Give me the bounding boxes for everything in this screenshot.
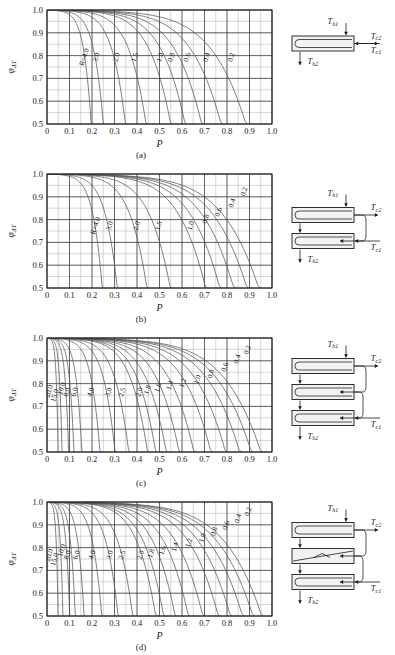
y-axis-label: φΔT xyxy=(6,223,17,237)
hot-transfer-arrow-1-head xyxy=(298,544,302,547)
x-tick-0.2: 0.2 xyxy=(87,454,98,464)
label-cold-outlet: Tc2 xyxy=(371,202,382,213)
label-cold-inlet: Tc1 xyxy=(371,45,382,56)
label-cold-inlet: Tc1 xyxy=(371,242,382,253)
y-tick-0.5: 0.5 xyxy=(32,119,43,129)
shell-1 xyxy=(292,523,354,538)
cold-connector-1 xyxy=(354,215,366,241)
panel-b: R=4.03.02.01.51.00.80.60.40.200.10.20.30… xyxy=(0,164,395,328)
schematic-a: Th1Th2Tc2Tc1 xyxy=(282,0,395,164)
y-tick-0.6: 0.6 xyxy=(32,260,43,270)
curve-label-R-0.2: 0.2 xyxy=(242,344,253,355)
x-tick-0.6: 0.6 xyxy=(177,454,188,464)
panel-caption-a: (a) xyxy=(0,150,282,160)
x-tick-0.2: 0.2 xyxy=(87,126,98,136)
label-hot-inlet: Th1 xyxy=(328,339,339,350)
schematic-c: Th1Th2Tc2Tc1 xyxy=(282,328,395,492)
label-hot-inlet: Th1 xyxy=(328,503,339,514)
x-tick-0.5: 0.5 xyxy=(154,454,165,464)
curve-label-R-2.5: 2.5 xyxy=(117,386,128,397)
curve-label-R-0.8: 0.8 xyxy=(206,368,217,379)
curve-label-R-2.5: 2.5 xyxy=(117,549,128,560)
y-tick-0.9: 0.9 xyxy=(32,356,43,366)
curve-label-R-3.0: 3.0 xyxy=(91,51,102,62)
y-tick-0.7: 0.7 xyxy=(32,73,43,83)
y-tick-0.8: 0.8 xyxy=(32,215,43,225)
curve-label-R-3.0: 3.0 xyxy=(104,386,115,397)
curve-label-R-0.4: 0.4 xyxy=(233,513,244,524)
x-tick-0: 0 xyxy=(45,126,49,136)
hot-inlet-arrow-head xyxy=(344,518,348,521)
flow-arrows xyxy=(298,195,380,263)
curve-label-R-6.0: 6.0 xyxy=(71,549,82,560)
shell-1 xyxy=(292,208,354,223)
curve-label-R-0.6: 0.6 xyxy=(214,206,225,217)
y-tick-0.8: 0.8 xyxy=(32,379,43,389)
label-hot-outlet: Th2 xyxy=(308,254,319,265)
lmtd-correction-figure: R=4.03.02.01.51.00.80.60.40.200.10.20.30… xyxy=(0,0,395,655)
x-tick-0.9: 0.9 xyxy=(244,618,255,628)
y-tick-0.6: 0.6 xyxy=(32,588,43,598)
x-tick-0.3: 0.3 xyxy=(109,618,120,628)
label-cold-inlet: Tc1 xyxy=(371,419,382,430)
x-tick-0.4: 0.4 xyxy=(132,290,143,300)
curve-label-R-0.8: 0.8 xyxy=(166,51,177,62)
curve-label-R-0.2: 0.2 xyxy=(226,51,237,62)
x-tick-0.8: 0.8 xyxy=(222,126,233,136)
x-tick-0: 0 xyxy=(45,290,49,300)
x-tick-0: 0 xyxy=(45,454,49,464)
x-tick-0.1: 0.1 xyxy=(64,454,75,464)
grid xyxy=(47,10,272,124)
x-tick-0.9: 0.9 xyxy=(244,454,255,464)
x-tick-0.1: 0.1 xyxy=(64,618,75,628)
hot-transfer-arrow-2-head xyxy=(298,406,302,409)
hot-outlet-arrow-head xyxy=(298,62,302,65)
x-tick-0.1: 0.1 xyxy=(64,126,75,136)
cold-outlet-arrow-head xyxy=(375,213,378,217)
label-hot-outlet: Th2 xyxy=(308,431,319,442)
curve-label-R-2.0: 2.0 xyxy=(136,549,147,560)
schematic-d: Th1Th2Tc2Tc1 xyxy=(282,492,395,655)
y-tick-0.7: 0.7 xyxy=(32,237,43,247)
curve-label-R-0.6: 0.6 xyxy=(220,361,231,372)
y-tick-1.0: 1.0 xyxy=(32,5,43,15)
x-tick-0.9: 0.9 xyxy=(244,290,255,300)
x-tick-0.5: 0.5 xyxy=(154,290,165,300)
hot-inlet-arrow-head xyxy=(344,32,348,35)
x-tick-0.6: 0.6 xyxy=(177,290,188,300)
curve-label-R-1.5: 1.5 xyxy=(154,220,165,231)
x-tick-0.7: 0.7 xyxy=(199,290,210,300)
curve-label-R-0.2: 0.2 xyxy=(243,506,254,517)
x-tick-0.7: 0.7 xyxy=(199,454,210,464)
x-tick-1.0: 1.0 xyxy=(267,454,278,464)
curve-label-R-4.0: R=4.0 xyxy=(89,216,102,236)
x-tick-0.9: 0.9 xyxy=(244,126,255,136)
y-tick-0.6: 0.6 xyxy=(32,96,43,106)
label-cold-inlet: Tc1 xyxy=(371,583,382,594)
label-hot-outlet: Th2 xyxy=(308,595,319,606)
y-axis-label: φΔT xyxy=(6,387,17,401)
shell-group xyxy=(292,208,366,249)
y-tick-0.8: 0.8 xyxy=(32,51,43,61)
cold-inlet-arrow-head xyxy=(355,42,358,46)
y-axis-label: φΔT xyxy=(6,551,17,565)
axis-ticks: 00.10.20.30.40.50.60.70.80.91.00.50.60.7… xyxy=(32,5,277,136)
label-hot-outlet: Th2 xyxy=(308,56,319,67)
label-hot-inlet: Th1 xyxy=(328,188,339,199)
x-tick-0.5: 0.5 xyxy=(154,126,165,136)
label-cold-outlet: Tc2 xyxy=(371,31,382,42)
x-tick-0.3: 0.3 xyxy=(109,126,120,136)
label-cold-outlet: Tc2 xyxy=(371,517,382,528)
hot-transfer-arrow-1-head xyxy=(298,380,302,383)
hot-outlet-arrow-head xyxy=(298,600,302,603)
cold-connector-1 xyxy=(354,530,366,556)
curve-label-R-4.0: 4.0 xyxy=(86,386,97,397)
chart-d: R=20.015.010.08.06.04.03.02.52.01.81.61.… xyxy=(0,492,282,655)
x-tick-0.2: 0.2 xyxy=(87,290,98,300)
curve-label-R-4.0: 4.0 xyxy=(87,549,98,560)
curve-label-R-1.8: 1.8 xyxy=(146,547,157,558)
x-tick-0.6: 0.6 xyxy=(177,126,188,136)
curve-label-R-4.0: R=4.0 xyxy=(78,47,91,67)
x-tick-0.8: 0.8 xyxy=(222,454,233,464)
hot-outlet-arrow-head xyxy=(298,436,302,439)
